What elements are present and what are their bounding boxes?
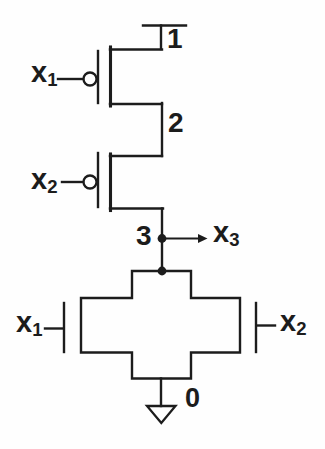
cmos-circuit-figure: 1 2 3 0 x1 x2 x3 x1 x2 <box>0 0 325 449</box>
node-label-0: 0 <box>185 385 200 412</box>
node-label-2: 2 <box>168 109 184 137</box>
signal-base: x <box>16 306 32 338</box>
node-label-1: 1 <box>167 25 183 53</box>
pmos1-inversion-bubble-icon <box>84 73 97 86</box>
signal-subscript: 2 <box>296 318 306 339</box>
nmos-parallel-loop <box>81 271 240 379</box>
signal-label-x2-nmos: x2 <box>280 307 306 339</box>
signal-label-x1-pmos: x1 <box>31 58 57 90</box>
signal-base: x <box>31 56 47 88</box>
signal-base: x <box>213 216 229 248</box>
output-arrow-head-icon <box>198 234 208 243</box>
signal-label-x1-nmos: x1 <box>16 308 42 340</box>
signal-base: x <box>31 163 47 195</box>
node3-junction-dot <box>158 234 167 243</box>
signal-subscript: 3 <box>229 229 239 250</box>
signal-label-x2-pmos: x2 <box>31 165 57 197</box>
signal-subscript: 1 <box>32 319 42 340</box>
node-label-3: 3 <box>136 222 152 250</box>
signal-subscript: 2 <box>47 176 57 197</box>
ground-symbol-icon <box>147 406 176 423</box>
signal-base: x <box>280 305 296 337</box>
signal-label-x3-output: x3 <box>213 218 239 250</box>
signal-subscript: 1 <box>47 69 57 90</box>
pmos2-inversion-bubble-icon <box>84 176 97 189</box>
